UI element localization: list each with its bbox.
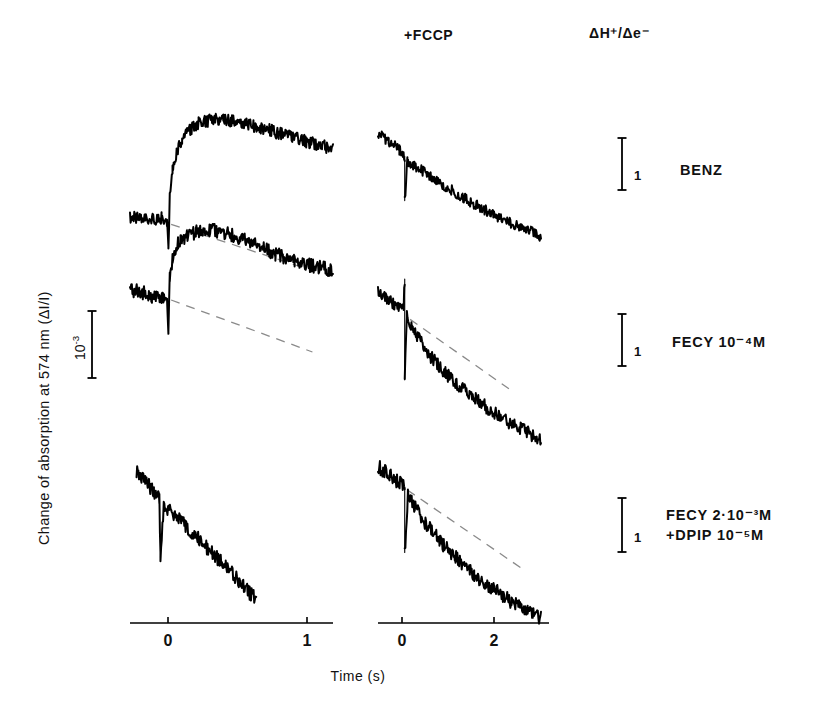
trace-line	[378, 285, 405, 311]
y-scale-exponent-label: 10-3	[70, 336, 88, 360]
scale-bar-label-fecy: 1	[634, 344, 641, 359]
dashed-baseline-line	[407, 490, 525, 571]
scale-bar-fecy-dpip	[618, 498, 627, 552]
column-header-fccp: +FCCP	[404, 27, 453, 43]
trace-plot-canvas	[0, 0, 829, 714]
y-scale-mantissa: 10	[72, 344, 88, 360]
trace-panel	[130, 114, 333, 269]
trace-line	[405, 157, 541, 240]
figure-root: +FCCP ΔH⁺/Δe⁻ Change of absorption at 57…	[0, 0, 829, 714]
row-label-fecy-dpip: FECY 2·10⁻³M +DPIP 10⁻⁵M	[666, 505, 772, 545]
row-label-benz: BENZ	[680, 160, 723, 180]
scale-bar-benz	[618, 138, 627, 190]
right-axis-tick-2: 2	[490, 632, 499, 650]
column-header-ratio: ΔH⁺/Δe⁻	[589, 25, 649, 41]
trace-line	[405, 311, 541, 445]
trace-line	[137, 466, 257, 603]
row-label-fecy: FECY 10⁻⁴M	[672, 332, 766, 352]
y-axis-label: Change of absorption at 574 nm (ΔI/I)	[36, 291, 52, 545]
scale-bar-fecy	[618, 314, 627, 366]
scale-bar-label-fecy-dpip: 1	[634, 530, 641, 545]
row-label-fecy-dpip-line2: +DPIP 10⁻⁵M	[666, 525, 772, 545]
x-axis-right	[378, 617, 549, 623]
y-scale-exponent: -3	[70, 336, 81, 345]
x-axis-title: Time (s)	[331, 668, 386, 684]
y-scale-bar	[88, 311, 97, 378]
trace-line	[130, 224, 333, 334]
trace-panel	[130, 224, 333, 352]
trace-line	[378, 461, 405, 490]
dashed-baseline-line	[410, 319, 509, 388]
row-label-fecy-dpip-line1: FECY 2·10⁻³M	[666, 505, 772, 525]
x-axis-left	[130, 617, 333, 623]
row-label-fecy-line1: FECY 10⁻⁴M	[672, 334, 766, 350]
right-axis-tick-0: 0	[398, 632, 407, 650]
trace-panel	[137, 466, 257, 603]
row-label-benz-line1: BENZ	[680, 162, 723, 178]
scale-bar-label-benz: 1	[634, 168, 641, 183]
trace-line	[378, 131, 405, 161]
left-axis-tick-1: 1	[303, 632, 312, 650]
dashed-baseline-line	[171, 300, 312, 352]
trace-panel	[378, 461, 541, 624]
trace-line	[405, 490, 541, 624]
trace-panel	[378, 279, 541, 444]
left-axis-tick-0: 0	[164, 632, 173, 650]
trace-panel	[378, 131, 541, 240]
